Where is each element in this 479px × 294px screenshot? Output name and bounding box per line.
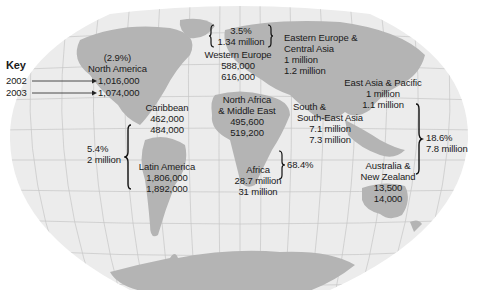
latin-america-name: Latin America: [133, 161, 201, 172]
eastern-europe-name-1: Eastern Europe &: [284, 32, 357, 43]
africa-brace: [278, 150, 286, 180]
key-year-2002: 2002: [6, 75, 27, 86]
europe-total-value: 1.34 million: [213, 36, 269, 47]
north-america-2003: 1,074,000: [98, 87, 139, 98]
north-africa-name-2: & Middle East: [214, 105, 280, 116]
caribbean-2003: 484,000: [137, 124, 197, 135]
caribbean-2002: 462,000: [137, 113, 197, 124]
asia-total-share: 18.6%: [426, 132, 468, 143]
latin-america-2003: 1,892,000: [133, 183, 201, 194]
australia-2003: 14,000: [358, 193, 418, 204]
europe-total-label: 3.5% 1.34 million: [213, 25, 269, 47]
western-europe-label: Western Europe 588,000 616,000: [200, 49, 276, 82]
australia-name-1: Australia &: [358, 160, 418, 171]
western-europe-2002: 588,000: [200, 60, 276, 71]
map-key: Key: [6, 60, 26, 71]
western-europe-2003: 616,000: [200, 71, 276, 82]
caribbean-label: Caribbean 462,000 484,000: [137, 102, 197, 135]
africa-total-share: 68.4%: [287, 159, 313, 170]
latam-total-share: 5.4%: [87, 143, 121, 154]
north-africa-label: North Africa & Middle East 495,600 519,2…: [214, 94, 280, 138]
europe-total-share: 3.5%: [213, 25, 269, 36]
north-america-share: (2.9%): [88, 52, 147, 63]
north-america-label: (2.9%) North America: [88, 52, 147, 74]
australia-2002: 13,500: [358, 182, 418, 193]
asia-total-value: 7.8 million: [426, 143, 468, 154]
north-africa-2002: 495,600: [214, 116, 280, 127]
africa-2003: 31 million: [230, 186, 286, 197]
eastern-europe-2003: 1.2 million: [284, 65, 357, 76]
latam-total-label: 5.4% 2 million: [87, 143, 121, 165]
australia-label: Australia & New Zealand 13,500 14,000: [358, 160, 418, 204]
south-asia-name-2: South-East Asia: [293, 112, 367, 123]
latin-america-label: Latin America 1,806,000 1,892,000: [133, 161, 201, 194]
key-title: Key: [6, 60, 26, 71]
key-arrows: [30, 74, 100, 100]
east-asia-2002: 1 million: [338, 88, 428, 99]
north-america-name: North America: [88, 63, 147, 74]
north-africa-name-1: North Africa: [214, 94, 280, 105]
asia-total-label: 18.6% 7.8 million: [426, 132, 468, 154]
east-asia-name: East Asia & Pacific: [338, 77, 428, 88]
eastern-europe-2002: 1 million: [284, 54, 357, 65]
caribbean-name: Caribbean: [137, 102, 197, 113]
key-year-2003: 2003: [6, 87, 27, 98]
south-asia-2003: 7.3 million: [293, 134, 367, 145]
australia-name-2: New Zealand: [358, 171, 418, 182]
north-america-2002: 1,016,000: [98, 75, 139, 86]
south-asia-2002: 7.1 million: [293, 123, 367, 134]
eastern-europe-label: Eastern Europe & Central Asia 1 million …: [284, 32, 357, 76]
western-europe-name: Western Europe: [200, 49, 276, 60]
latin-america-2002: 1,806,000: [133, 172, 201, 183]
latam-total-value: 2 million: [87, 154, 121, 165]
north-africa-2003: 519,200: [214, 127, 280, 138]
eastern-europe-name-2: Central Asia: [284, 43, 357, 54]
